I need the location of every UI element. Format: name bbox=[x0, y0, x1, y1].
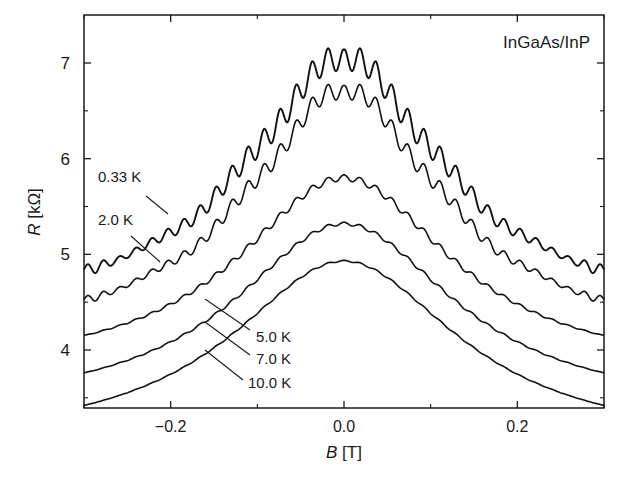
series-label: 2.0 K bbox=[98, 211, 133, 228]
series-label: 10.0 K bbox=[248, 374, 291, 391]
plot-frame bbox=[84, 15, 604, 408]
x-tick-label: 0.2 bbox=[506, 418, 528, 435]
series-labels: 0.33 K2.0 K5.0 K7.0 K10.0 K bbox=[98, 168, 291, 391]
y-tick-label: 6 bbox=[61, 150, 70, 169]
series-label: 5.0 K bbox=[256, 328, 291, 345]
series-curve-7-0-k bbox=[84, 222, 604, 373]
series-label: 7.0 K bbox=[256, 350, 291, 367]
y-tick-label: 4 bbox=[61, 341, 70, 360]
series-curve-0-33-k bbox=[84, 48, 604, 273]
leader-line bbox=[205, 299, 250, 330]
series-label: 0.33 K bbox=[98, 168, 141, 185]
magnetoresistance-chart: 0.33 K2.0 K5.0 K7.0 K10.0 K −0.20.00.245… bbox=[0, 0, 620, 479]
y-axis-label: R [kΩ] bbox=[25, 188, 44, 236]
series-curve-10-0-k bbox=[84, 260, 604, 405]
series-curve-5-0-k bbox=[84, 175, 604, 336]
x-axis-label: B [T] bbox=[326, 443, 362, 462]
leader-line bbox=[205, 350, 243, 380]
y-tick-label: 7 bbox=[61, 54, 70, 73]
leader-line bbox=[146, 196, 168, 214]
axis-ticks bbox=[84, 15, 604, 408]
annotation-material: InGaAs/InP bbox=[503, 33, 590, 52]
x-tick-label: −0.2 bbox=[155, 418, 187, 435]
y-tick-label: 5 bbox=[61, 245, 70, 264]
series-curves bbox=[84, 48, 604, 405]
x-tick-label: 0.0 bbox=[333, 418, 355, 435]
series-curve-2-0-k bbox=[84, 84, 604, 301]
